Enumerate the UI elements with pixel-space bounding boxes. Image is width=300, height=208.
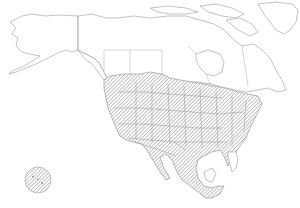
florida-outline	[228, 152, 238, 172]
range-map	[0, 0, 300, 208]
hawaii-inset	[25, 167, 51, 193]
greenland-outline	[258, 2, 298, 34]
alaska-outline	[9, 14, 78, 74]
yucatan-outline	[204, 168, 216, 182]
species-range	[104, 72, 262, 198]
